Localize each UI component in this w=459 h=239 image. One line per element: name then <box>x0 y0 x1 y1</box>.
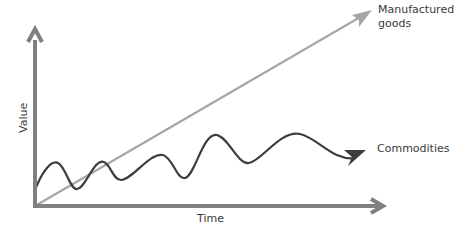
manufactured-goods-label: Manufactured goods <box>378 3 454 31</box>
commodities-line <box>34 134 366 193</box>
x-axis-label: Time <box>197 212 224 226</box>
y-axis-label: Value <box>17 103 30 133</box>
manufactured-label-line1: Manufactured <box>378 3 454 17</box>
manufactured-label-line2: goods <box>378 17 454 31</box>
commodities-label: Commodities <box>377 142 449 156</box>
chart-canvas <box>0 0 459 239</box>
manufactured-goods-line <box>35 10 372 206</box>
manufactured-arrowhead-icon <box>352 10 372 27</box>
